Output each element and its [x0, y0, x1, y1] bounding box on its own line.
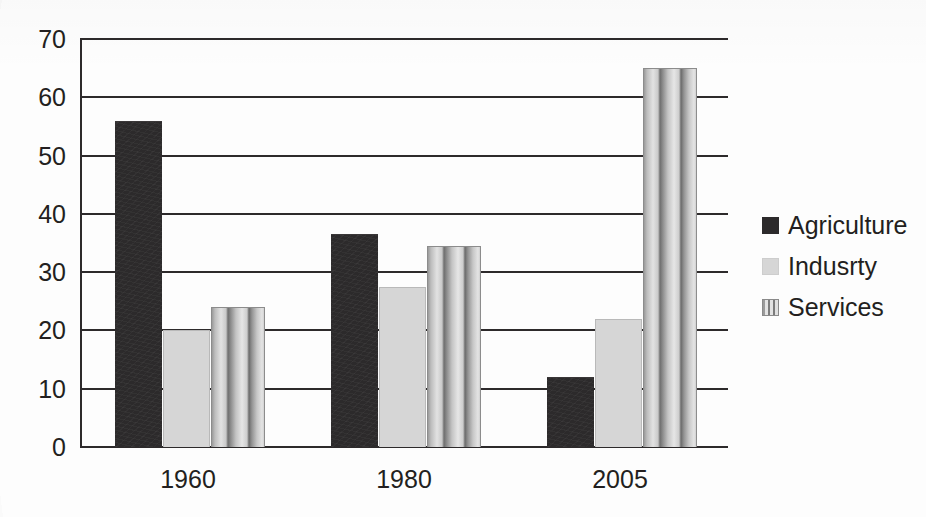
- y-axis-tick-label: 0: [52, 435, 66, 460]
- bar-services-1980: [427, 246, 481, 447]
- y-axis-tick-label: 30: [38, 260, 66, 285]
- bar-group: [296, 39, 512, 447]
- legend-swatch-industry-icon: [762, 258, 779, 275]
- bar-group: [80, 39, 296, 447]
- y-axis-tick-label: 70: [38, 27, 66, 52]
- legend-label: Services: [788, 295, 884, 320]
- bar-industry-2005: [595, 319, 642, 447]
- bar-agriculture-1980: [331, 234, 378, 447]
- bar-industry-1960: [163, 330, 210, 447]
- bar-agriculture-1960: [115, 121, 162, 447]
- x-axis-tick-label: 1980: [376, 465, 432, 494]
- bar-agriculture-2005: [547, 377, 594, 447]
- bar-industry-1980: [379, 287, 426, 447]
- y-axis-tick-label: 20: [38, 318, 66, 343]
- bar-services-2005: [643, 68, 697, 447]
- legend-item-industry[interactable]: Indusrty: [762, 246, 922, 287]
- legend-swatch-agriculture-icon: [762, 217, 779, 234]
- legend-label: Agriculture: [788, 213, 908, 238]
- bar-services-1960: [211, 307, 265, 447]
- bar-group: [512, 39, 728, 447]
- legend-item-services[interactable]: Services: [762, 287, 922, 328]
- x-axis-tick-label: 1960: [160, 465, 216, 494]
- legend-item-agriculture[interactable]: Agriculture: [762, 205, 922, 246]
- legend-label: Indusrty: [788, 254, 877, 279]
- y-axis-tick-label: 10: [38, 376, 66, 401]
- y-axis-tick-label: 40: [38, 201, 66, 226]
- x-axis-tick-label: 2005: [592, 465, 648, 494]
- legend-swatch-services-icon: [762, 299, 779, 316]
- plot-area: 706050403020100 196019802005: [80, 39, 728, 447]
- chart-legend: AgricultureIndusrtyServices: [762, 205, 922, 328]
- bar-chart: 706050403020100 196019802005 Agriculture…: [0, 0, 926, 517]
- y-axis-tick-label: 60: [38, 85, 66, 110]
- y-axis-tick-label: 50: [38, 143, 66, 168]
